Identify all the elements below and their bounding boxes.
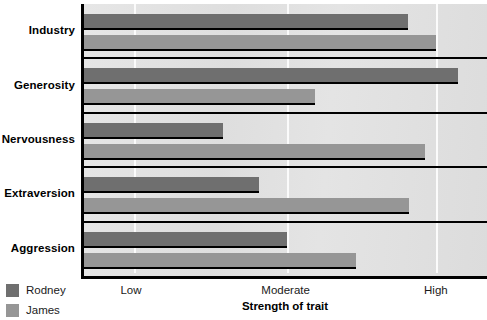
- bar-track: [84, 68, 487, 84]
- bar-aggression-james: [84, 253, 356, 269]
- category-row: [84, 167, 487, 221]
- bar-track: [84, 89, 487, 105]
- bar-track: [84, 198, 487, 214]
- category-row: [84, 113, 487, 167]
- x-axis-tick-moderate: Moderate: [261, 284, 310, 296]
- legend-item-james[interactable]: James: [6, 301, 66, 319]
- x-axis-title: Strength of trait: [242, 300, 328, 312]
- x-axis-tick-low: Low: [120, 284, 141, 296]
- y-axis-label-industry: Industry: [0, 24, 75, 36]
- bar-track: [84, 35, 487, 51]
- bar-track: [84, 123, 487, 139]
- legend-label: James: [26, 304, 60, 316]
- category-row: [84, 222, 487, 276]
- bar-track: [84, 253, 487, 269]
- legend-item-rodney[interactable]: Rodney: [6, 281, 66, 299]
- x-axis-tick-high: High: [424, 284, 448, 296]
- legend-swatch-icon: [6, 304, 19, 317]
- bar-generosity-rodney: [84, 68, 458, 84]
- legend: RodneyJames: [6, 281, 66, 320]
- bar-nervousness-james: [84, 144, 425, 160]
- bar-generosity-james: [84, 89, 315, 105]
- bar-industry-james: [84, 35, 436, 51]
- bar-track: [84, 232, 487, 248]
- bar-aggression-rodney: [84, 232, 287, 248]
- bar-extraversion-rodney: [84, 177, 259, 193]
- y-axis-label-nervousness: Nervousness: [0, 133, 75, 145]
- bar-industry-rodney: [84, 14, 408, 30]
- bar-extraversion-james: [84, 198, 409, 214]
- legend-label: Rodney: [26, 284, 66, 296]
- plot-inner: [84, 4, 487, 273]
- y-axis-label-generosity: Generosity: [0, 79, 75, 91]
- y-axis-label-extraversion: Extraversion: [0, 187, 75, 199]
- bar-track: [84, 177, 487, 193]
- y-axis-label-aggression: Aggression: [0, 242, 75, 254]
- plot-area: [81, 4, 487, 279]
- legend-swatch-icon: [6, 284, 19, 297]
- category-row: [84, 58, 487, 112]
- category-row: [84, 4, 487, 58]
- bar-track: [84, 14, 487, 30]
- bar-nervousness-rodney: [84, 123, 223, 139]
- bar-track: [84, 144, 487, 160]
- bar-chart: IndustryGenerosityNervousnessExtraversio…: [0, 0, 487, 320]
